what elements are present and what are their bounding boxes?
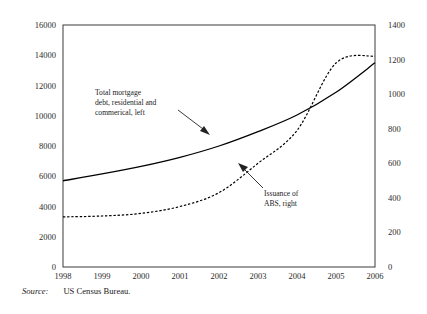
annotation-left-series-line2: debt, residential and bbox=[95, 98, 156, 108]
y-axis-left-tick-label: 14000 bbox=[6, 51, 56, 60]
chart-plot-area bbox=[0, 0, 427, 314]
x-axis-tick-label: 2006 bbox=[355, 272, 395, 281]
y-axis-left-tick-label: 2000 bbox=[6, 233, 56, 242]
y-axis-left-tick-label: 0 bbox=[6, 263, 56, 272]
annotation-left-series-line1: Total mortgage bbox=[95, 88, 156, 98]
x-axis-tick-label: 2004 bbox=[277, 272, 317, 281]
annotation-arrows bbox=[178, 110, 263, 188]
x-axis-tick-label: 2003 bbox=[238, 272, 278, 281]
x-axis-tick-label: 2002 bbox=[199, 272, 239, 281]
y-axis-right-tick-label: 800 bbox=[388, 125, 401, 134]
annotation-left-series: Total mortgage debt, residential and com… bbox=[95, 88, 156, 118]
y-axis-right-tick-label: 0 bbox=[388, 263, 392, 272]
y-axis-right-tick-label: 1000 bbox=[388, 90, 405, 99]
y-axis-left-tick-label: 6000 bbox=[6, 172, 56, 181]
x-axis-tick-label: 1999 bbox=[82, 272, 122, 281]
x-axis-tick-label: 2001 bbox=[160, 272, 200, 281]
annotation-right-series: Issuance of ABS, right bbox=[264, 189, 298, 209]
y-axis-right-tick-label: 200 bbox=[388, 228, 401, 237]
source-value: US Census Bureau. bbox=[63, 286, 130, 296]
y-axis-right-tick-label: 1200 bbox=[388, 56, 405, 65]
source-note: Source:US Census Bureau. bbox=[22, 286, 130, 296]
source-label: Source: bbox=[22, 286, 48, 296]
x-axis-tick-label: 2005 bbox=[316, 272, 356, 281]
y-axis-left-tick-label: 10000 bbox=[6, 112, 56, 121]
annotation-left-series-line3: commerical, left bbox=[95, 108, 156, 118]
y-axis-left-tick-label: 4000 bbox=[6, 203, 56, 212]
series-line-mortgage-debt bbox=[63, 63, 375, 181]
chart-figure: 0200040006000800010000120001400016000 02… bbox=[0, 0, 427, 314]
series-group bbox=[63, 55, 375, 217]
y-axis-right-tick-label: 400 bbox=[388, 194, 401, 203]
y-axis-left-tick-label: 8000 bbox=[6, 142, 56, 151]
series-line-abs-issuance bbox=[63, 55, 375, 217]
x-axis-tick-label: 1998 bbox=[43, 272, 83, 281]
x-axis-tick-label: 2000 bbox=[121, 272, 161, 281]
y-axis-left-tick-label: 12000 bbox=[6, 82, 56, 91]
y-axis-right-tick-label: 1400 bbox=[388, 21, 405, 30]
right-series-arrow-head bbox=[238, 163, 248, 172]
y-axis-left-tick-label: 16000 bbox=[6, 21, 56, 30]
y-axis-right-tick-label: 600 bbox=[388, 159, 401, 168]
annotation-right-series-line2: ABS, right bbox=[264, 199, 298, 209]
annotation-right-series-line1: Issuance of bbox=[264, 189, 298, 199]
